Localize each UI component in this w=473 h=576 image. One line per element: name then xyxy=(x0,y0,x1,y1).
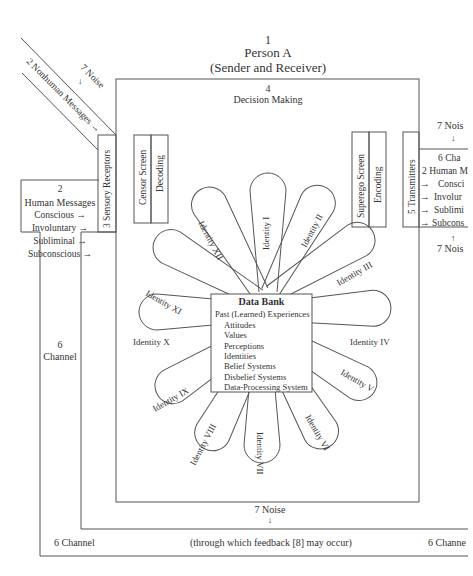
data-bank-title: Data Bank xyxy=(211,297,312,307)
human-message-involuntary: Involuntary → xyxy=(21,222,99,235)
human-message-subconscious: Subconscious → xyxy=(21,248,99,261)
human-messages-out-label: 2 Human M xyxy=(420,165,473,178)
out-involuntary: → Involur xyxy=(420,191,473,204)
bottom-noise-arrow: ↓ xyxy=(265,515,275,526)
identity-6-label: Identity VI xyxy=(303,413,331,452)
right-noise-top: 7 Nois xyxy=(437,120,463,132)
bottom-channel-left: 6 Channel xyxy=(54,537,95,549)
human-messages-in: 2 Human Messages Conscious → Involuntary… xyxy=(21,183,99,261)
human-messages-in-label: Human Messages xyxy=(21,196,99,209)
decision-making-label: Decision Making xyxy=(218,94,318,106)
nonhuman-noise-label: 7 Noise xyxy=(79,62,107,90)
data-bank-item: Past (Learned) Experiences xyxy=(211,309,312,319)
identity-3-label: Identity III xyxy=(335,259,374,287)
identity-4-label: Identity IV xyxy=(350,337,390,347)
identity-10-label: Identity X xyxy=(133,337,170,347)
bottom-feedback: (through which feedback [8] may occur) xyxy=(190,537,352,549)
identity-8-label: Identity VIII xyxy=(188,422,218,467)
data-bank: Data Bank Past (Learned) Experiences Att… xyxy=(211,297,312,393)
channel-left-label: Channel xyxy=(43,351,77,362)
identity-1-label: Identity I xyxy=(261,217,271,250)
data-bank-item: Belief Systems xyxy=(211,361,312,371)
human-message-conscious: Conscious → xyxy=(21,209,99,222)
identity-5-label: Identity V xyxy=(339,367,376,394)
human-messages-in-number: 2 xyxy=(21,183,99,196)
human-message-subliminal: Subliminal → xyxy=(21,235,99,248)
data-bank-item: Values xyxy=(211,330,312,340)
right-channel-label: 6 Cha xyxy=(420,152,473,165)
out-subconscious: → Subcons xyxy=(420,217,473,230)
right-noise-top-arrow: ↓ xyxy=(451,133,456,144)
superego-screen-label: Superego Screen xyxy=(356,154,366,218)
encoding-label: Encoding xyxy=(373,166,383,203)
data-bank-item: Disbelief Systems xyxy=(211,372,312,382)
data-bank-item: Attitudes xyxy=(211,320,312,330)
sensory-receptors-label: 3 Sensory Receptors xyxy=(102,150,112,228)
data-bank-item: Perceptions xyxy=(211,341,312,351)
identity-7-label: Identity VII xyxy=(255,432,265,475)
title-person: Person A xyxy=(218,45,318,61)
transmitters-label: 5 Transmitters xyxy=(407,159,417,214)
out-subliminal: → Sublimi xyxy=(420,204,473,217)
nonhuman-arrow: ↓ xyxy=(78,76,83,86)
data-bank-item: Identities xyxy=(211,351,312,361)
title-role: (Sender and Receiver) xyxy=(198,60,338,76)
identity-12-label: Identity XII xyxy=(196,219,225,261)
data-bank-item: Data-Processing System xyxy=(211,382,312,392)
bottom-channel-right: 6 Channe xyxy=(428,537,466,549)
censor-screen-label: Censor Screen xyxy=(138,150,148,205)
identity-11-label: Identity XI xyxy=(144,288,183,317)
channel-left-number: 6 xyxy=(58,339,63,350)
decoding-label: Decoding xyxy=(155,155,165,192)
human-messages-out: 6 Cha 2 Human M → Consci → Involur → Sub… xyxy=(420,152,473,230)
out-conscious: → Consci xyxy=(420,178,473,191)
right-noise-bottom: 7 Nois xyxy=(437,243,463,255)
